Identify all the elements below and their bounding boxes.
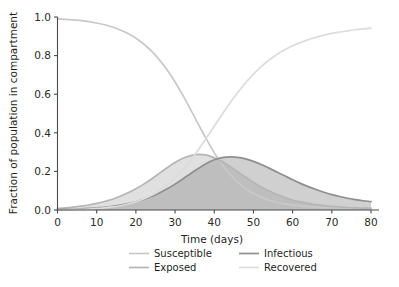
- x-tick-label: 0: [54, 216, 61, 228]
- y-tick-label: 0.4: [34, 127, 51, 139]
- legend-label-exposed[interactable]: Exposed: [154, 262, 196, 273]
- y-tick-labels: 0.00.20.40.60.81.0: [34, 11, 51, 216]
- chart-figure: 01020304050607080 0.00.20.40.60.81.0 Tim…: [0, 0, 399, 287]
- x-tick-label: 30: [168, 216, 181, 228]
- x-tick-label: 50: [247, 216, 260, 228]
- y-tick-label: 0.0: [34, 204, 51, 216]
- x-tick-label: 20: [129, 216, 142, 228]
- y-tick-label: 0.8: [34, 49, 51, 61]
- legend-label-infectious[interactable]: Infectious: [264, 248, 313, 259]
- x-axis-title: Time (days): [180, 233, 243, 245]
- x-tick-label: 40: [208, 216, 221, 228]
- x-tick-label: 60: [286, 216, 299, 228]
- y-tick-label: 0.2: [34, 165, 51, 177]
- y-tick-label: 0.6: [34, 88, 51, 100]
- y-tick-label: 1.0: [34, 11, 51, 23]
- x-tick-labels: 01020304050607080: [54, 216, 378, 228]
- x-tick-label: 80: [364, 216, 377, 228]
- x-tick-label: 70: [325, 216, 338, 228]
- seir-line-chart: 01020304050607080 0.00.20.40.60.81.0 Tim…: [0, 0, 399, 287]
- chart-legend: SusceptibleInfectiousExposedRecovered: [129, 248, 317, 273]
- legend-label-susceptible[interactable]: Susceptible: [154, 248, 212, 259]
- legend-label-recovered[interactable]: Recovered: [264, 262, 317, 273]
- y-axis-title: Fraction of population in compartment: [7, 12, 19, 214]
- x-tick-label: 10: [90, 216, 103, 228]
